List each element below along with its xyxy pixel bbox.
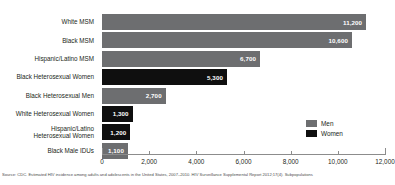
plot-area: White MSM11,200Black MSM10,600Hispanic/L… — [0, 6, 394, 158]
legend-label-women: Women — [321, 130, 343, 137]
bar-women: 1,200 — [102, 124, 130, 140]
x-tick-label: 2,000 — [141, 158, 157, 165]
legend: Men Women — [306, 120, 343, 140]
bar-value-label: 1,300 — [113, 110, 129, 117]
x-tick — [338, 151, 339, 155]
category-label: Black MSM — [0, 37, 98, 44]
bar-row: Black Heterosexual Men2,700 — [0, 88, 394, 104]
category-label: Black Heterosexual Men — [0, 92, 98, 99]
x-axis-right-cap — [385, 148, 386, 155]
bar-row: Black Heterosexual Women5,300 — [0, 69, 394, 85]
category-label: White Heterosexual Women — [0, 110, 98, 117]
bar-track: 1,300 — [102, 106, 394, 122]
bar-value-label: 11,200 — [343, 19, 362, 26]
bar-men: 11,200 — [102, 14, 366, 30]
x-tick — [291, 151, 292, 155]
bar-track: 11,200 — [102, 14, 394, 30]
bar-men: 10,600 — [102, 32, 352, 48]
x-tick — [244, 151, 245, 155]
bar-track: 5,300 — [102, 69, 394, 85]
category-label: Hispanic/Latino Heterosexual Women — [0, 125, 98, 140]
bar-row: White MSM11,200 — [0, 14, 394, 30]
bar-track: 2,700 — [102, 88, 394, 104]
legend-swatch-women-icon — [306, 130, 317, 137]
bar-track: 6,700 — [102, 51, 394, 67]
bar-row: Hispanic/Latino MSM6,700 — [0, 51, 394, 67]
x-tick — [196, 151, 197, 155]
category-label: Black Male IDUs — [0, 147, 98, 154]
bar-track: 1,100 — [102, 143, 394, 159]
x-tick-label: 6,000 — [236, 158, 252, 165]
category-label: Black Heterosexual Women — [0, 73, 98, 80]
legend-label-men: Men — [321, 120, 333, 127]
category-label: Hispanic/Latino MSM — [0, 55, 98, 62]
bar-row: Black MSM10,600 — [0, 32, 394, 48]
bar-men: 1,100 — [102, 143, 128, 159]
x-tick-label: 12,000 — [375, 158, 395, 165]
bar-track: 10,600 — [102, 32, 394, 48]
x-axis-left-cap — [102, 148, 103, 155]
x-tick — [149, 151, 150, 155]
bar-track: 1,200 — [102, 124, 394, 140]
legend-swatch-men-icon — [306, 120, 317, 127]
x-tick-label: 0 — [100, 158, 104, 165]
bar-value-label: 10,600 — [328, 37, 348, 44]
category-label: White MSM — [0, 18, 98, 25]
x-tick-label: 8,000 — [283, 158, 299, 165]
bar-women: 5,300 — [102, 69, 227, 85]
bar-value-label: 6,700 — [240, 55, 256, 62]
bar-value-label: 1,200 — [110, 129, 126, 136]
bar-value-label: 5,300 — [207, 74, 223, 81]
legend-item-men: Men — [306, 120, 343, 127]
bar-men: 2,700 — [102, 88, 166, 104]
bar-women: 1,300 — [102, 106, 133, 122]
bar-value-label: 2,700 — [146, 92, 162, 99]
x-tick-label: 10,000 — [328, 158, 348, 165]
bar-men: 6,700 — [102, 51, 260, 67]
legend-item-women: Women — [306, 130, 343, 137]
source-note: Source: CDC. Estimated HIV incidence amo… — [2, 172, 394, 177]
x-tick-label: 4,000 — [188, 158, 204, 165]
